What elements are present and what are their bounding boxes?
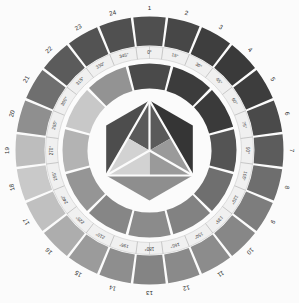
inner-ring-segment: [128, 64, 170, 91]
degree-label: 180°: [145, 246, 155, 251]
outer-ring-segment: [15, 134, 45, 166]
inner-ring-segment: [63, 129, 90, 171]
outer-number-label: 19: [3, 147, 10, 154]
outer-number-label: 1: [148, 4, 152, 11]
outer-ring-segment: [133, 17, 165, 47]
degree-label: 0°: [147, 50, 152, 55]
degree-label: 90°: [245, 147, 250, 154]
outer-ring-segment: [254, 134, 284, 166]
color-wheel-svg: 123456789101112131415161718192021222324 …: [0, 0, 299, 303]
inner-ring-segment: [210, 129, 237, 171]
outer-number-label: 13: [146, 290, 153, 297]
degree-label: 270°: [49, 146, 54, 156]
outer-number-label: 7: [289, 149, 296, 153]
outer-ring-segment: [133, 255, 165, 285]
inner-ring-segment: [128, 211, 170, 238]
color-wheel-figure: 123456789101112131415161718192021222324 …: [0, 0, 299, 303]
